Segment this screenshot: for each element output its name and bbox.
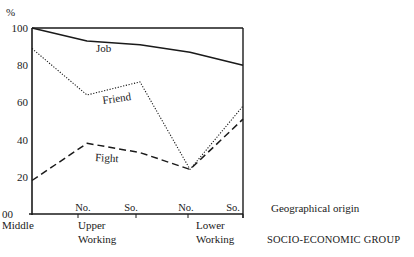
series-friend-line (32, 49, 243, 170)
series-job-label: Job (96, 42, 112, 54)
group-label: Working (196, 233, 235, 245)
series-friend-label: Friend (102, 90, 133, 106)
y-tick-label: 40 (17, 134, 29, 146)
series-group (32, 28, 243, 181)
line-chart: 0020406080100%No.So.No.So.MiddleUpperWor… (0, 0, 414, 257)
y-unit-label: % (6, 6, 15, 18)
group-label: Lower (196, 219, 225, 231)
series-fight-line (32, 119, 243, 180)
group-label: Upper (78, 219, 106, 231)
origin-label: No. (75, 202, 90, 213)
axes (29, 28, 243, 218)
y-tick-label: 100 (12, 22, 29, 34)
socio-economic-group-label: SOCIO-ECONOMIC GROUP (267, 234, 400, 246)
geographical-origin-label: Geographical origin (271, 202, 359, 214)
origin-label: No. (178, 202, 193, 213)
series-fight-label: Fight (95, 151, 119, 164)
y-tick-label: 20 (17, 171, 29, 183)
group-label: Middle (2, 219, 34, 231)
y-tick-label: 60 (17, 96, 29, 108)
series-job-line (32, 28, 243, 65)
origin-label: So. (226, 202, 240, 213)
y-tick-label: 80 (17, 59, 29, 71)
group-label: Working (78, 233, 117, 245)
axis-labels: 0020406080100%No.So.No.So.MiddleUpperWor… (2, 6, 240, 245)
origin-label: So. (124, 202, 138, 213)
